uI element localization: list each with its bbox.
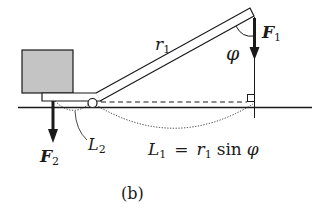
right-angle-mark (248, 95, 255, 102)
r1-label: r1 (155, 34, 170, 56)
phi-angle-arc (236, 26, 254, 36)
l2-dotted-arc (55, 101, 89, 110)
phi-label: φ (226, 42, 240, 64)
figure-caption: (b) (121, 184, 144, 203)
f1-label: F1 (261, 22, 281, 44)
l2-label: L2 (87, 135, 106, 156)
pivot-fulcrum (88, 99, 97, 108)
f2-arrowhead (48, 129, 58, 143)
f1-arrowhead (250, 47, 260, 60)
l1-formula: L1=r1sinφ (147, 139, 259, 161)
load-box (22, 50, 73, 93)
l2-leader-line (75, 111, 87, 140)
lever-diagram: r1 φ F1 F2 L2 L1=r1sinφ (b) (0, 0, 318, 208)
f2-label: F2 (39, 146, 59, 168)
